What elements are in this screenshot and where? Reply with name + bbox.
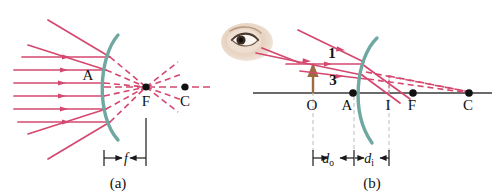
diverge-line-4 bbox=[146, 87, 178, 112]
diverge-line-3 bbox=[146, 87, 182, 100]
caption-a: (a) bbox=[110, 175, 127, 192]
vertex-point-dot-b bbox=[349, 89, 357, 97]
figure-canvas: A F C f (a) bbox=[0, 0, 499, 196]
diverge-line-2 bbox=[146, 74, 182, 87]
panel-b: O A I F C 1 3 do di (b) bbox=[253, 30, 492, 192]
label-ray-1: 1 bbox=[328, 45, 336, 61]
optics-figure: A F C f (a) bbox=[0, 0, 499, 196]
reflected-rays-a bbox=[28, 20, 110, 159]
ray-upper-arrowhead bbox=[336, 46, 345, 51]
diverge-line-1 bbox=[146, 62, 178, 87]
ray-3-reflected bbox=[362, 75, 400, 103]
label-d-image-sub: i bbox=[371, 158, 374, 168]
incident-ray-arrowheads-a bbox=[58, 54, 70, 124]
label-F-b: F bbox=[408, 97, 416, 113]
label-O-b: O bbox=[307, 97, 318, 113]
focal-point-dot-a bbox=[142, 83, 149, 90]
label-d-image: di bbox=[364, 151, 374, 168]
reflected-ray-6 bbox=[48, 122, 110, 159]
label-I-b: I bbox=[386, 97, 391, 113]
ray-1-arrowhead bbox=[324, 61, 332, 66]
focal-point-dot-b bbox=[409, 89, 417, 97]
guide-lines-b bbox=[313, 78, 389, 152]
converge-line-1 bbox=[110, 57, 146, 87]
label-d-object-sub: o bbox=[329, 158, 334, 168]
panel-a: A F C f (a) bbox=[14, 20, 214, 192]
label-ray-3: 3 bbox=[329, 72, 337, 88]
eye-pupil bbox=[239, 38, 243, 42]
label-C-a: C bbox=[180, 93, 190, 109]
converge-line-4 bbox=[104, 87, 146, 96]
label-d-object: do bbox=[322, 151, 334, 168]
label-C-b: C bbox=[463, 97, 473, 113]
reflected-ray-1 bbox=[48, 20, 110, 57]
center-point-dot-b bbox=[465, 89, 473, 97]
concave-mirror-b bbox=[358, 38, 377, 143]
label-F-a: F bbox=[142, 93, 150, 109]
label-A-b: A bbox=[342, 97, 353, 113]
label-A-a: A bbox=[83, 67, 94, 83]
label-focal-length-a: f bbox=[124, 151, 130, 166]
caption-b: (b) bbox=[363, 175, 381, 192]
focal-convergence-dashed-a bbox=[104, 57, 146, 122]
center-point-dot-a bbox=[181, 83, 188, 90]
